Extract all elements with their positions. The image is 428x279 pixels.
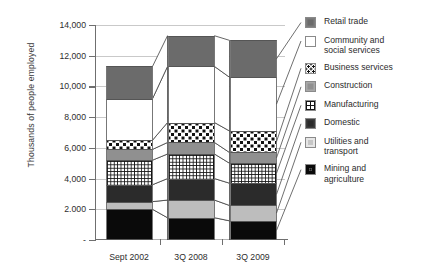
- legend-label: Business services: [324, 62, 393, 72]
- y-axis-tick-label: 2.000: [64, 204, 86, 214]
- legend-swatch: [305, 63, 316, 74]
- legend-swatch: [305, 137, 316, 148]
- legend-item[interactable]: Manufacturing: [305, 99, 427, 111]
- y-axis-tick-label: 10,000: [59, 81, 86, 91]
- legend-swatch: [305, 118, 316, 129]
- legend-swatch: [305, 81, 316, 92]
- legend-swatch: [305, 36, 316, 47]
- legend-label: Utilities and transport: [324, 136, 368, 157]
- plot-area: 14,00012,00010,0008,0006,0004,0002.000- …: [95, 25, 285, 240]
- leader-line: [277, 41, 302, 104]
- legend-label: Manufacturing: [324, 99, 378, 109]
- leader-line: [277, 23, 302, 59]
- y-axis-tick-label: 4,000: [64, 174, 86, 184]
- legend-label: Community and social services: [324, 35, 384, 56]
- legend-swatch: [305, 100, 316, 111]
- y-axis-tick-label: -: [83, 235, 86, 245]
- y-axis-tick-label: 12,000: [59, 51, 86, 61]
- leader-line: [277, 124, 302, 195]
- legend-item[interactable]: Utilities and transport: [305, 136, 427, 157]
- leader-line: [277, 105, 302, 173]
- legend-item[interactable]: Mining and agriculture: [305, 163, 427, 184]
- stacked-bar-chart: Thousands of people employed 14,00012,00…: [0, 0, 428, 279]
- legend-label: Domestic: [324, 117, 360, 127]
- legend-label: Retail trade: [324, 16, 368, 26]
- y-axis-tick-label: 8,000: [64, 112, 86, 122]
- leader-line: [277, 87, 302, 158]
- y-axis-title: Thousands of people employed: [26, 0, 36, 210]
- legend-item[interactable]: Community and social services: [305, 35, 427, 56]
- y-axis-tick-label: 14,000: [59, 20, 86, 30]
- legend-swatch: [305, 17, 316, 28]
- legend-item[interactable]: Domestic: [305, 117, 427, 129]
- legend-label: Construction: [324, 80, 372, 90]
- legend-item[interactable]: Construction: [305, 80, 427, 92]
- legend: Retail tradeCommunity and social service…: [305, 16, 427, 190]
- y-axis-tick-label: 6,000: [64, 143, 86, 153]
- leader-line-svg: [95, 13, 325, 273]
- legend-label: Mining and agriculture: [324, 163, 366, 184]
- legend-item[interactable]: Business services: [305, 62, 427, 74]
- leader-line: [277, 68, 302, 141]
- legend-swatch: [305, 164, 316, 175]
- legend-item[interactable]: Retail trade: [305, 16, 427, 28]
